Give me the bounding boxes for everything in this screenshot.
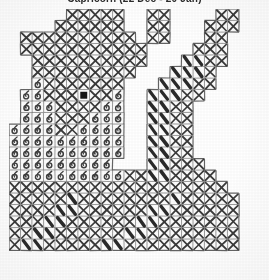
pattern-grid: [9, 9, 259, 275]
chart-title-bar: Capricorn (22 Dec - 20 Jan): [0, 0, 269, 7]
cross-stitch-chart: [9, 9, 259, 275]
page-title: Capricorn (22 Dec - 20 Jan): [0, 0, 269, 4]
